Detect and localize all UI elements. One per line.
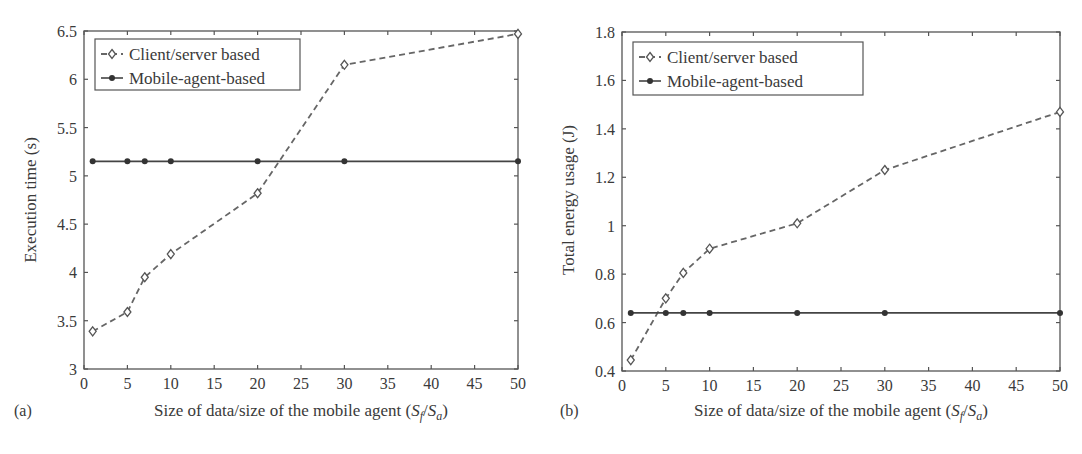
series-mobile-agent — [628, 310, 1063, 316]
series-mobile-agent — [90, 158, 521, 164]
legend-label: Mobile-agent-based — [129, 69, 265, 88]
x-tick-label: 5 — [662, 377, 670, 394]
plot-area: 051015202530354045500.40.60.811.21.41.61… — [595, 24, 1068, 394]
asterisk-marker — [515, 158, 521, 164]
asterisk-marker — [168, 158, 174, 164]
diamond-marker — [89, 327, 96, 336]
asterisk-marker — [255, 158, 261, 164]
x-tick-label: 50 — [1052, 377, 1068, 394]
x-tick-label: 20 — [789, 377, 805, 394]
x-tick-label: 40 — [423, 375, 439, 392]
y-tick-label: 1 — [607, 218, 615, 235]
asterisk-marker — [109, 75, 115, 81]
y-tick-label: 3 — [69, 361, 77, 378]
x-tick-label: 30 — [877, 377, 893, 394]
diamond-marker — [881, 166, 888, 175]
x-tick-label: 0 — [618, 377, 626, 394]
panel-label: (a) — [14, 402, 32, 420]
x-tick-label: 45 — [467, 375, 483, 392]
y-tick-label: 4 — [69, 264, 77, 281]
y-tick-label: 1.2 — [595, 169, 615, 186]
y-axis-label: Execution time (s) — [21, 137, 40, 263]
x-tick-label: 15 — [745, 377, 761, 394]
x-tick-label: 35 — [921, 377, 937, 394]
legend-label: Client/server based — [129, 45, 260, 64]
x-tick-label: 45 — [1008, 377, 1024, 394]
asterisk-marker — [1057, 310, 1063, 316]
diamond-marker — [167, 250, 174, 259]
y-tick-label: 1.8 — [595, 24, 615, 41]
asterisk-marker — [142, 158, 148, 164]
x-tick-label: 0 — [80, 375, 88, 392]
series-line — [631, 112, 1060, 360]
y-tick-label: 4.5 — [57, 216, 77, 233]
asterisk-marker — [707, 310, 713, 316]
asterisk-marker — [794, 310, 800, 316]
y-tick-label: 3.5 — [57, 313, 77, 330]
y-axis-label: Total energy usage (J) — [559, 125, 578, 275]
x-tick-label: 5 — [123, 375, 131, 392]
x-tick-label: 50 — [510, 375, 526, 392]
asterisk-marker — [90, 158, 96, 164]
asterisk-marker — [647, 78, 653, 84]
asterisk-marker — [341, 158, 347, 164]
y-tick-label: 0.4 — [595, 363, 615, 380]
y-tick-label: 6 — [69, 71, 77, 88]
x-tick-label: 10 — [702, 377, 718, 394]
y-tick-label: 5.5 — [57, 120, 77, 137]
y-tick-label: 0.8 — [595, 266, 615, 283]
legend: Client/server basedMobile-agent-based — [95, 39, 300, 90]
x-tick-label: 15 — [206, 375, 222, 392]
x-axis-label: Size of data/size of the mobile agent (S… — [154, 401, 448, 423]
legend: Client/server basedMobile-agent-based — [633, 42, 863, 95]
asterisk-marker — [663, 310, 669, 316]
y-tick-label: 5 — [69, 168, 77, 185]
x-tick-label: 40 — [964, 377, 980, 394]
series-client-server — [627, 107, 1063, 364]
y-tick-label: 6.5 — [57, 23, 77, 40]
figure: 0510152025303540455033.544.555.566.5Clie… — [0, 0, 1082, 454]
y-tick-label: 1.4 — [595, 121, 615, 138]
diamond-marker — [1057, 107, 1064, 116]
x-tick-label: 30 — [336, 375, 352, 392]
x-tick-label: 20 — [250, 375, 266, 392]
x-tick-label: 25 — [293, 375, 309, 392]
x-axis-label: Size of data/size of the mobile agent (S… — [694, 401, 988, 423]
chart-energy-usage: 051015202530354045500.40.60.811.21.41.61… — [559, 24, 1068, 423]
x-tick-label: 25 — [833, 377, 849, 394]
asterisk-marker — [124, 158, 130, 164]
panel-label: (b) — [560, 402, 579, 420]
plot-area: 0510152025303540455033.544.555.566.5Clie… — [57, 23, 526, 392]
x-tick-label: 10 — [163, 375, 179, 392]
asterisk-marker — [680, 310, 686, 316]
asterisk-marker — [628, 310, 634, 316]
chart-execution-time: 0510152025303540455033.544.555.566.5Clie… — [14, 23, 526, 423]
y-tick-label: 1.6 — [595, 72, 615, 89]
diamond-marker — [794, 219, 801, 228]
asterisk-marker — [882, 310, 888, 316]
legend-label: Mobile-agent-based — [667, 72, 803, 91]
x-tick-label: 35 — [380, 375, 396, 392]
legend-label: Client/server based — [667, 48, 798, 67]
y-tick-label: 0.6 — [595, 315, 615, 332]
